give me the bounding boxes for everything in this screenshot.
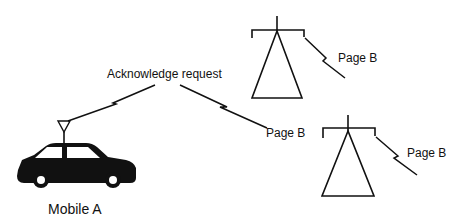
- page-b-tower-1-label: Page B: [338, 52, 377, 64]
- tower-2-icon: [322, 115, 375, 196]
- page-b-center-label: Page B: [266, 127, 305, 139]
- mobile-a-label: Mobile A: [48, 202, 102, 216]
- acknowledge-request-label: Acknowledge request: [107, 68, 222, 80]
- page-b-tower-2-label: Page B: [407, 147, 446, 159]
- diagram-canvas: [0, 0, 457, 224]
- tower-1-icon: [252, 16, 304, 98]
- car-icon: [17, 121, 136, 188]
- acknowledge-bolt-icon: [68, 85, 155, 121]
